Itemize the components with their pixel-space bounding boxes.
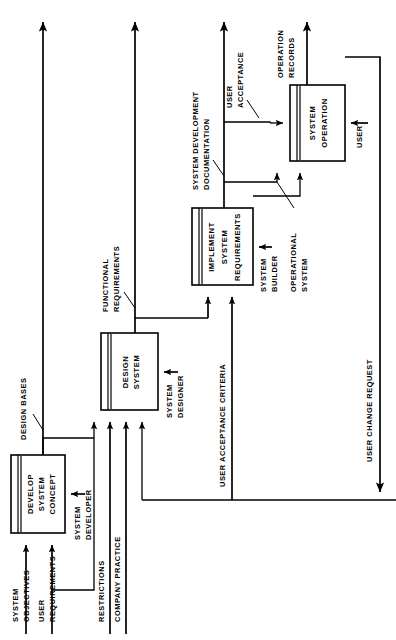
- activity-label-operation-line1: SYSTEM: [308, 106, 317, 141]
- label-restrictions: RESTRICTIONS: [97, 560, 106, 622]
- label-sys-dev-doc-line2: DOCUMENTATION: [202, 118, 211, 190]
- activity-box-design-system[interactable]: DESIGN SYSTEM: [101, 333, 158, 410]
- activity-box-implement-system-requirements[interactable]: IMPLEMENT SYSTEM REQUIREMENTS: [192, 208, 253, 285]
- diagram-page: DEVELOP SYSTEM CONCEPT DESIGN SYSTEM IMP…: [0, 0, 396, 640]
- activity-label-implement-line1: IMPLEMENT: [207, 222, 216, 272]
- label-company-practice: COMPANY PRACTICE: [113, 536, 122, 622]
- activity-label-operation-line2: OPERATION: [320, 98, 329, 148]
- label-user-acceptance-line1: USER: [225, 85, 234, 108]
- label-user-change-request-line1: USER CHANGE REQUEST: [365, 359, 374, 462]
- label-design-bases-line1: DESIGN BASES: [19, 378, 28, 440]
- label-system-builder: SYSTEM BUILDER: [259, 255, 279, 292]
- label-system-designer-line2: DESIGNER: [176, 375, 185, 418]
- label-user-requirements-line2: REQUIREMENTS: [48, 556, 57, 622]
- activity-box-system-operation[interactable]: SYSTEM OPERATION: [290, 85, 345, 161]
- label-user-mechanism: USER: [355, 125, 364, 148]
- label-user-line1: USER: [355, 125, 364, 148]
- flow-operational-system-link: [224, 173, 300, 196]
- label-restrictions-line1: RESTRICTIONS: [97, 560, 106, 622]
- label-system-development-documentation: SYSTEM DEVELOPMENT DOCUMENTATION: [191, 91, 224, 190]
- activity-label-design-line2: SYSTEM: [132, 355, 141, 390]
- label-user-acceptance: USER ACCEPTANCE: [225, 52, 259, 118]
- label-system-objectives-line1: SYSTEM: [11, 588, 20, 622]
- label-system-builder-line2: BUILDER: [270, 255, 279, 292]
- flow-design-bases-link: [43, 438, 94, 455]
- activity-label-design-line1: DESIGN: [121, 356, 130, 388]
- activity-label-develop-line3: CONCEPT: [48, 474, 57, 515]
- activity-label-implement-line3: REQUIREMENTS: [233, 213, 242, 281]
- label-user-requirements: USER REQUIREMENTS: [37, 556, 57, 622]
- label-operational-system: OPERATIONAL SYSTEM: [277, 182, 309, 292]
- label-design-bases: DESIGN BASES: [19, 378, 43, 440]
- label-operational-system-line1: OPERATIONAL: [289, 233, 298, 292]
- sadt-diagram-canvas: DEVELOP SYSTEM CONCEPT DESIGN SYSTEM IMP…: [0, 0, 396, 640]
- label-user-acceptance-criteria: USER ACCEPTANCE CRITERIA: [218, 364, 227, 487]
- label-system-builder-line1: SYSTEM: [259, 258, 268, 292]
- label-functional-requirements: FUNCTIONAL REQUIREMENTS: [101, 246, 135, 312]
- activity-label-develop-line1: DEVELOP: [26, 474, 35, 514]
- label-system-objectives-line2: OBJECTIVES: [22, 570, 31, 622]
- label-system-developer: SYSTEM DEVELOPER: [73, 489, 93, 540]
- label-system-developer-line2: DEVELOPER: [84, 489, 93, 540]
- label-functional-requirements-line2: REQUIREMENTS: [112, 246, 121, 312]
- label-system-designer-line1: SYSTEM: [165, 384, 174, 418]
- label-operational-system-line2: SYSTEM: [300, 258, 309, 292]
- label-operation-records: OPERATION RECORDS: [276, 30, 296, 78]
- label-user-change-request: USER CHANGE REQUEST: [365, 359, 374, 462]
- flow-user-requirements-branch: [52, 537, 94, 590]
- label-system-designer: SYSTEM DESIGNER: [165, 375, 185, 418]
- label-system-developer-line1: SYSTEM: [73, 506, 82, 540]
- label-company-practice-line1: COMPANY PRACTICE: [113, 536, 122, 622]
- label-operation-records-line2: RECORDS: [287, 37, 296, 78]
- label-sys-dev-doc-line1: SYSTEM DEVELOPMENT: [191, 91, 200, 190]
- activity-box-develop-system-concept[interactable]: DEVELOP SYSTEM CONCEPT: [11, 455, 65, 533]
- activity-label-develop-line2: SYSTEM: [37, 477, 46, 512]
- label-user-acceptance-criteria-line1: USER ACCEPTANCE CRITERIA: [218, 364, 227, 487]
- label-operation-records-line1: OPERATION: [276, 30, 285, 78]
- flow-user-acceptance-link: [224, 122, 283, 123]
- label-functional-requirements-line1: FUNCTIONAL: [101, 258, 110, 312]
- label-system-objectives: SYSTEM OBJECTIVES: [11, 570, 31, 622]
- label-user-requirements-line1: USER: [37, 599, 46, 622]
- activity-label-implement-line2: SYSTEM: [220, 230, 229, 265]
- label-user-acceptance-line2: ACCEPTANCE: [236, 52, 245, 108]
